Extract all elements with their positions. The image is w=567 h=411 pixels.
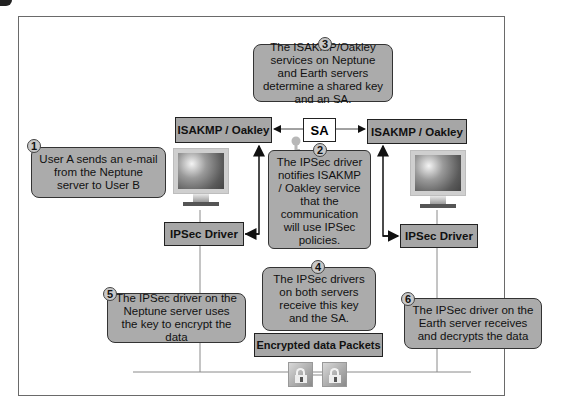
step-3-callout: The ISAKMP/Oakley services on Neptune an… xyxy=(253,44,393,102)
lock-icon xyxy=(322,362,347,387)
step-1-callout: User A sends an e-mail from the Neptune … xyxy=(31,147,166,198)
step-1-text: User A sends an e-mail from the Neptune … xyxy=(38,153,159,192)
step-6-text: The IPSec driver on the Earth server rec… xyxy=(411,304,535,343)
step-2-callout: The IPSec driver notifies ISAKMP / Oakle… xyxy=(268,150,371,249)
neptune-server-monitor-icon xyxy=(173,148,229,212)
step-4-callout: The IPSec drivers on both servers receiv… xyxy=(262,267,376,331)
step-5-callout: The IPSec driver on the Neptune server u… xyxy=(107,293,246,343)
isakmp-oakley-left: ISAKMP / Oakley xyxy=(175,117,272,143)
sa-box: SA xyxy=(303,118,336,142)
lock-icon xyxy=(288,362,313,387)
encrypted-data-packets-label: Encrypted data Packets xyxy=(254,333,383,357)
ipsec-driver-right: IPSec Driver xyxy=(400,224,478,248)
earth-server-monitor-icon xyxy=(410,150,466,214)
step-6-badge: 6 xyxy=(401,292,415,306)
step-1-badge: 1 xyxy=(27,139,41,153)
step-4-text: The IPSec drivers on both servers receiv… xyxy=(269,273,369,325)
ipsec-driver-left: IPSec Driver xyxy=(164,222,244,246)
isakmp-oakley-right: ISAKMP / Oakley xyxy=(367,119,467,144)
step-6-callout: The IPSec driver on the Earth server rec… xyxy=(404,298,542,349)
step-5-badge: 5 xyxy=(103,287,117,301)
step-4-badge: 4 xyxy=(311,260,325,274)
step-2-badge: 2 xyxy=(313,143,327,157)
step-5-text: The IPSec driver on the Neptune server u… xyxy=(114,292,239,344)
step-3-badge: 3 xyxy=(318,37,332,51)
step-2-text: The IPSec driver notifies ISAKMP / Oakle… xyxy=(275,156,364,247)
